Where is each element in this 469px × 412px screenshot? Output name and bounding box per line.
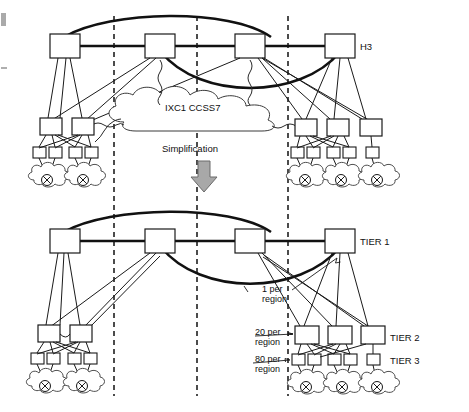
switch-node-icon — [68, 353, 81, 364]
switch-node-icon — [84, 353, 97, 364]
cloud-center-label: IXC1 CCSS7 — [165, 102, 220, 113]
switch-node-icon — [50, 34, 80, 58]
switch-node-icon — [344, 354, 357, 365]
switch-node-icon — [325, 34, 355, 58]
switch-node-icon — [295, 119, 317, 136]
switch-node-icon — [327, 147, 340, 158]
anno-1-line2: region — [262, 294, 287, 304]
switch-node-icon — [235, 229, 265, 253]
tier1-label: TIER 1 — [360, 236, 390, 247]
switch-node-icon — [69, 147, 82, 158]
switch-node-icon — [85, 147, 98, 158]
switch-node-icon — [328, 326, 352, 344]
switch-node-icon — [328, 354, 341, 365]
switch-node-icon — [366, 147, 379, 158]
switch-node-icon — [308, 354, 321, 365]
switch-node-icon — [145, 34, 175, 58]
h3-label: H3 — [360, 41, 372, 52]
switch-node-icon — [307, 147, 320, 158]
switch-node-icon — [360, 119, 382, 136]
switch-node-icon — [50, 229, 80, 253]
switch-node-icon — [367, 354, 380, 365]
switch-node-icon — [145, 229, 175, 253]
switch-node-icon — [38, 325, 60, 342]
switch-node-icon — [235, 34, 265, 58]
tier3-label: TIER 3 — [390, 355, 420, 366]
switch-node-icon — [292, 354, 305, 365]
tier2-label: TIER 2 — [390, 332, 420, 343]
network-diagram: H3 IXC1 CCSS7 — [0, 0, 469, 412]
switch-node-icon — [70, 325, 92, 342]
switch-node-icon — [343, 147, 356, 158]
switch-node-icon — [33, 147, 46, 158]
switch-node-icon — [327, 119, 349, 136]
switch-node-icon — [72, 118, 94, 135]
anno-20-line2: region — [255, 337, 280, 347]
simplification-label: Simplification — [162, 143, 218, 154]
switch-node-icon — [31, 353, 44, 364]
anno-80-line2: region — [255, 364, 280, 374]
switch-node-icon — [49, 147, 62, 158]
switch-node-icon — [47, 353, 60, 364]
switch-node-icon — [361, 326, 385, 344]
anno-1-line1: 1 per — [262, 284, 283, 294]
switch-node-icon — [40, 118, 62, 135]
switch-node-icon — [295, 326, 319, 344]
switch-node-icon — [325, 229, 355, 253]
switch-node-icon — [291, 147, 304, 158]
